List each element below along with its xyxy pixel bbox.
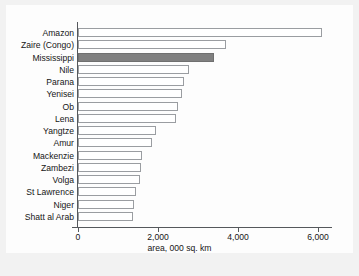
y-tick-label-yenisei: Yenisei (0, 88, 74, 100)
bar-row (78, 186, 318, 198)
bar-row (78, 150, 318, 162)
bar-row (78, 113, 318, 125)
bar-lena (78, 114, 176, 123)
y-tick-label-volga: Volga (0, 174, 74, 186)
bar-zambezi (78, 163, 141, 172)
y-tick-label-mackenzie: Mackenzie (0, 150, 74, 162)
bar-row (78, 64, 318, 76)
y-tick-label-amazon: Amazon (0, 27, 74, 39)
y-tick-label-lena: Lena (0, 113, 74, 125)
bar-mackenzie (78, 151, 142, 160)
bar-row (78, 137, 318, 149)
bar-row (78, 101, 318, 113)
plot-area (78, 27, 318, 223)
bar-yenisei (78, 89, 182, 98)
y-tick-label-nile: Nile (0, 64, 74, 76)
x-tick-label: 6,000 (307, 232, 329, 242)
bar-row (78, 199, 318, 211)
x-tick-label: 4,000 (227, 232, 249, 242)
bar-amazon (78, 28, 322, 37)
bar-row (78, 174, 318, 186)
y-tick-label-zaire-congo: Zaire (Congo) (0, 39, 74, 51)
y-tick-label-yangtze: Yangtze (0, 125, 74, 137)
bar-st-lawrence (78, 187, 136, 196)
x-tick-label: 2,000 (147, 232, 169, 242)
y-tick-label-zambezi: Zambezi (0, 162, 74, 174)
bar-zaire-congo (78, 40, 226, 49)
y-axis-tick-labels: AmazonZaire (Congo)MississippiNileParana… (0, 27, 74, 223)
bar-row (78, 162, 318, 174)
bar-yangtze (78, 126, 156, 135)
y-tick-label-shatt-al-arab: Shatt al Arab (0, 211, 74, 223)
bar-row (78, 88, 318, 100)
bar-shatt-al-arab (78, 212, 133, 221)
x-tick-label: 0 (76, 232, 81, 242)
y-tick-label-parana: Parana (0, 76, 74, 88)
bar-nile (78, 65, 189, 74)
bar-parana (78, 77, 184, 86)
x-axis-title: area, 000 sq. km (0, 243, 359, 253)
bar-row (78, 52, 318, 64)
bar-row (78, 27, 318, 39)
bar-niger (78, 200, 134, 209)
y-tick-label-mississippi: Mississippi (0, 52, 74, 64)
bar-row (78, 39, 318, 51)
bar-row (78, 76, 318, 88)
bar-volga (78, 175, 140, 184)
y-tick-label-ob: Ob (0, 101, 74, 113)
bar-ob (78, 102, 178, 111)
chart-figure: AmazonZaire (Congo)MississippiNileParana… (0, 0, 359, 276)
y-tick-label-st-lawrence: St Lawrence (0, 186, 74, 198)
x-axis-ticks: 02,0004,0006,000 (0, 228, 359, 242)
y-tick-label-niger: Niger (0, 199, 74, 211)
bar-row (78, 125, 318, 137)
y-tick-label-amur: Amur (0, 137, 74, 149)
bar-mississippi (78, 53, 214, 62)
bar-row (78, 211, 318, 223)
bar-amur (78, 138, 152, 147)
